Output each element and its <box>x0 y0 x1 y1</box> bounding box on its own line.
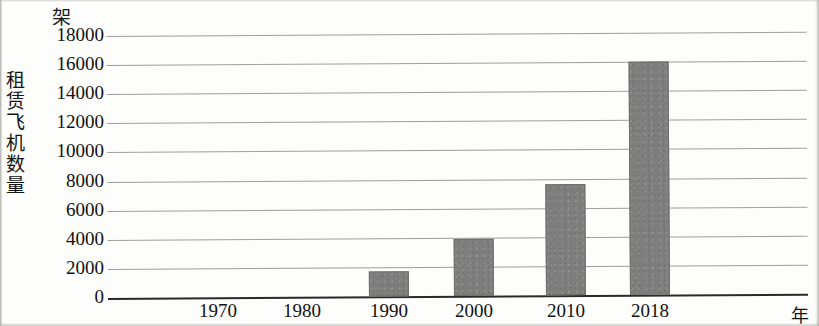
x-tick-label: 1990 <box>370 300 408 322</box>
y-tick-label: 6000 <box>66 199 104 221</box>
bar <box>629 62 670 295</box>
x-tick-label: 1970 <box>199 300 237 322</box>
gridline <box>107 61 807 66</box>
y-tick-label: 8000 <box>66 170 104 192</box>
page-edge-top <box>0 0 819 2</box>
y-tick-label: 16000 <box>57 53 105 75</box>
x-tick-label: 2010 <box>547 300 585 322</box>
y-tick-label: 2000 <box>66 257 104 279</box>
x-tick-label: 2000 <box>455 300 493 322</box>
chart-canvas <box>106 32 808 298</box>
gridline <box>107 148 807 153</box>
bar <box>369 271 409 296</box>
gridline <box>107 90 807 95</box>
y-tick-label: 14000 <box>57 82 105 104</box>
gridline <box>107 119 807 124</box>
page-edge-right <box>815 0 819 326</box>
y-tick-label: 10000 <box>57 140 105 162</box>
y-tick-label: 18000 <box>57 24 105 46</box>
bar <box>454 239 494 296</box>
bar <box>545 184 586 295</box>
scanned-chart-page: 架 租 赁 飞 机 数 量 18000160001400012000100008… <box>0 0 819 326</box>
gridline <box>107 206 807 211</box>
y-tick-label: 12000 <box>57 111 105 133</box>
gridline <box>107 177 807 182</box>
gridline <box>106 32 806 37</box>
x-tick-label: 2018 <box>631 300 669 322</box>
y-axis-tick-labels: 1800016000140001200010000800060004000200… <box>0 36 104 298</box>
x-axis-tick-labels: 197019801990200020102018年 <box>0 298 819 326</box>
plot-area <box>108 36 808 298</box>
x-axis-unit-label: 年 <box>791 301 809 326</box>
x-tick-label: 1980 <box>283 300 321 322</box>
y-tick-label: 4000 <box>66 228 104 250</box>
gridlines <box>106 32 806 36</box>
